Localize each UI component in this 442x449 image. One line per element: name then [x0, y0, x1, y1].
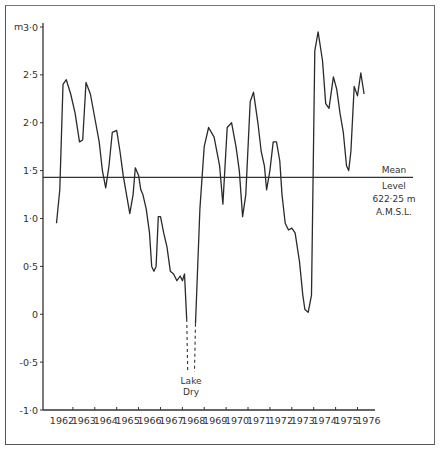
mean-level-label: Level — [382, 181, 406, 191]
x-tick-label: 1972 — [269, 415, 293, 426]
y-tick-label: 3·0 — [23, 22, 38, 33]
x-tick-label: 1966 — [137, 415, 161, 426]
annotations: LakeDry — [181, 319, 202, 397]
lake-dry-label: Lake — [181, 376, 202, 386]
x-tick-label: 1963 — [72, 415, 96, 426]
y-tick-label: 0 — [32, 309, 38, 320]
mean-level-label: 622·25 m — [372, 194, 415, 204]
line-chart: m3·02·52·01·51·00·50-0·5-1·0196219631964… — [0, 0, 442, 449]
x-tick-label: 1964 — [94, 415, 118, 426]
x-tick-label: 1969 — [203, 415, 227, 426]
lake-level-line — [57, 80, 187, 319]
x-tick-label: 1967 — [159, 415, 183, 426]
axes: m3·02·52·01·51·00·50-0·5-1·0196219631964… — [14, 21, 381, 426]
dry-gap-dashed-right — [194, 324, 195, 372]
x-tick-label: 1965 — [116, 415, 140, 426]
mean-level-label: A.M.S.L. — [376, 207, 412, 217]
lake-dry-label: Dry — [183, 387, 200, 397]
y-tick-label: -0·5 — [19, 357, 38, 368]
y-tick-label: 0·5 — [23, 261, 38, 272]
y-tick-label: 2·5 — [23, 69, 38, 80]
x-tick-label: 1976 — [356, 415, 380, 426]
x-tick-label: 1968 — [181, 415, 205, 426]
x-tick-label: 1970 — [225, 415, 249, 426]
x-tick-label: 1962 — [50, 415, 74, 426]
y-tick-label: -1·0 — [19, 405, 38, 416]
y-tick-label: 1·5 — [23, 165, 38, 176]
y-axis-unit: m — [14, 21, 23, 32]
x-tick-label: 1971 — [247, 415, 271, 426]
y-tick-label: 1·0 — [23, 213, 38, 224]
y-tick-label: 2·0 — [23, 117, 38, 128]
dry-gap-dashed-left — [187, 319, 188, 372]
x-tick-label: 1975 — [334, 415, 358, 426]
x-tick-label: 1973 — [291, 415, 315, 426]
mean-level-reference: MeanLevel622·25 mA.M.S.L. — [43, 165, 416, 217]
x-tick-label: 1974 — [313, 415, 337, 426]
mean-level-label: Mean — [382, 165, 407, 175]
